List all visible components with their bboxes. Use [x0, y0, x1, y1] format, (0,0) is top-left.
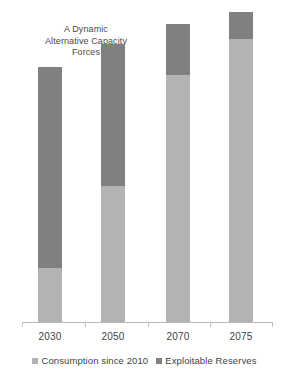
x-axis-label-2030: 2030 — [20, 331, 80, 342]
bar-2050-segment-exploitable-reserves — [101, 44, 125, 185]
bar-2030 — [38, 67, 62, 322]
bar-2070-segment-exploitable-reserves — [166, 24, 190, 75]
legend-item-consumption: Consumption since 2010 — [32, 355, 148, 366]
bar-2070 — [166, 24, 190, 322]
bar-2050 — [101, 44, 125, 322]
x-axis-tick — [272, 322, 273, 327]
x-axis-tick — [22, 322, 23, 327]
x-axis-label-2075: 2075 — [211, 331, 271, 342]
plot-area — [0, 0, 289, 322]
bar-2070-segment-consumption — [166, 75, 190, 322]
bar-2075-segment-exploitable-reserves — [229, 12, 253, 39]
legend-swatch-icon-exploitable-reserves — [156, 358, 162, 364]
bar-2075 — [229, 12, 253, 322]
legend-label-consumption: Consumption since 2010 — [41, 355, 148, 366]
legend-swatch-icon-consumption — [32, 358, 38, 364]
legend-label-exploitable-reserves: Exploitable Reserves — [165, 355, 256, 366]
x-axis-line — [22, 322, 272, 323]
x-axis-label-2050: 2050 — [83, 331, 143, 342]
bar-2030-segment-consumption — [38, 268, 62, 323]
chart-legend: Consumption since 2010 Exploitable Reser… — [0, 355, 289, 366]
legend-item-exploitable-reserves: Exploitable Reserves — [156, 355, 256, 366]
x-axis-tick — [148, 322, 149, 327]
x-axis-label-2070: 2070 — [148, 331, 208, 342]
x-axis-tick — [210, 322, 211, 327]
bar-2050-segment-consumption — [101, 186, 125, 322]
stacked-bar-chart: A Dynamic Alternative Capacity Forces — [0, 0, 289, 387]
bar-2030-segment-exploitable-reserves — [38, 67, 62, 268]
x-axis-tick — [85, 322, 86, 327]
bar-2075-segment-consumption — [229, 39, 253, 322]
